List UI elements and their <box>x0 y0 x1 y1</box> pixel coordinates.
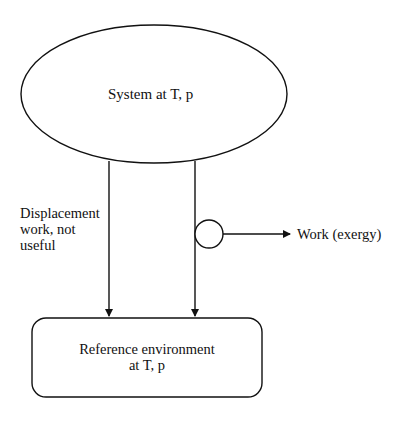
environment-line-2: at T, p <box>32 357 262 373</box>
system-label: System at T, p <box>108 86 193 102</box>
environment-label: Reference environment at T, p <box>32 341 262 373</box>
work-device-circle <box>195 220 223 248</box>
displacement-label: Displacement work, not useful <box>20 205 100 253</box>
environment-line-1: Reference environment <box>32 341 262 357</box>
displacement-line-1: Displacement <box>20 205 100 221</box>
displacement-line-2: work, not <box>20 221 100 237</box>
displacement-line-3: useful <box>20 237 100 253</box>
work-exergy-label: Work (exergy) <box>297 226 381 242</box>
